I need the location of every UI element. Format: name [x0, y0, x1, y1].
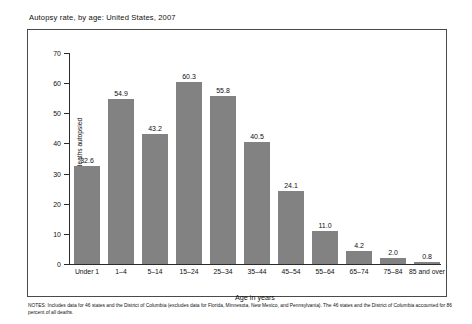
bar-value-label: 11.0	[308, 222, 342, 229]
bar-value-label: 43.2	[138, 125, 172, 132]
bar-value-label: 2.0	[376, 249, 410, 256]
bar-slot: 32.6	[70, 53, 104, 264]
bar[interactable]	[142, 134, 168, 264]
bar-value-label: 55.8	[206, 87, 240, 94]
figure-title: Autopsy rate, by age: United States, 200…	[29, 13, 176, 22]
y-axis-tick-label: 70	[43, 50, 61, 57]
y-axis-tick	[64, 174, 69, 175]
bar[interactable]	[244, 142, 270, 264]
y-axis-tick	[64, 143, 69, 144]
x-axis-line	[69, 264, 441, 265]
y-axis-tick-label: 10	[43, 230, 61, 237]
bar-value-label: 24.1	[274, 182, 308, 189]
chart-frame: Percent of deaths autopsied 010203040506…	[27, 29, 447, 297]
bar[interactable]	[278, 191, 304, 264]
bar-value-label: 60.3	[172, 73, 206, 80]
figure-autopsy-rate: Autopsy rate, by age: United States, 200…	[0, 0, 472, 324]
y-axis-tick-label: 60	[43, 80, 61, 87]
y-axis-tick-label: 0	[43, 261, 61, 268]
bar-value-label: 0.8	[410, 253, 444, 260]
bar-slot: 55.8	[206, 53, 240, 264]
bar-value-label: 54.9	[104, 90, 138, 97]
bar-slot: 11.0	[308, 53, 342, 264]
bar-slot: 60.3	[172, 53, 206, 264]
bar-value-label: 40.5	[240, 133, 274, 140]
y-axis-tick-label: 40	[43, 140, 61, 147]
bar[interactable]	[210, 96, 236, 264]
bar[interactable]	[312, 231, 338, 264]
y-axis-tick-label: 20	[43, 200, 61, 207]
bar-slot: 4.2	[342, 53, 376, 264]
bar[interactable]	[176, 82, 202, 264]
y-axis-tick	[64, 204, 69, 205]
y-axis-tick	[64, 113, 69, 114]
bar-slot: 0.8	[410, 53, 444, 264]
x-axis-title: Age in years	[69, 293, 441, 302]
bar-slot: 54.9	[104, 53, 138, 264]
bar[interactable]	[346, 251, 372, 264]
bar[interactable]	[414, 262, 440, 264]
bar-slot: 2.0	[376, 53, 410, 264]
y-axis-tick-label: 50	[43, 110, 61, 117]
plot-area: Percent of deaths autopsied 010203040506…	[69, 53, 441, 264]
y-axis-tick	[64, 53, 69, 54]
bar-slot: 40.5	[240, 53, 274, 264]
bar[interactable]	[108, 99, 134, 264]
y-axis-tick-label: 30	[43, 170, 61, 177]
x-axis-category-label: 85 and over	[407, 268, 447, 277]
figure-notes: NOTES: Includes data for 46 states and t…	[28, 303, 452, 316]
bar-value-label: 32.6	[70, 157, 104, 164]
bar-value-label: 4.2	[342, 242, 376, 249]
bar-series: 32.654.943.260.355.840.524.111.04.22.00.…	[70, 53, 441, 264]
bar-slot: 43.2	[138, 53, 172, 264]
bar-slot: 24.1	[274, 53, 308, 264]
bar[interactable]	[74, 166, 100, 264]
y-axis-tick	[64, 264, 69, 265]
bar[interactable]	[380, 258, 406, 264]
y-axis-tick	[64, 83, 69, 84]
y-axis-tick	[64, 234, 69, 235]
